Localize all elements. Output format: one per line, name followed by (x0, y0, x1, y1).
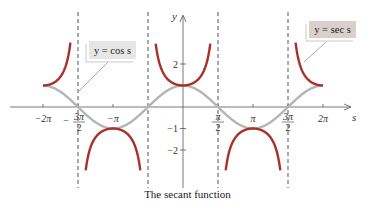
sec-curve-branch (226, 129, 281, 171)
x-axis-label: s (352, 111, 356, 123)
cos-leader-line (78, 62, 108, 92)
x-tick-label: π2 (212, 111, 224, 133)
x-tick-label: −2π (35, 113, 53, 124)
cos-label-callout: y = cos s (78, 41, 136, 92)
sec-curve-branch (43, 43, 70, 86)
svg-text:2: 2 (286, 122, 291, 133)
svg-text:2: 2 (216, 122, 221, 133)
svg-text:π: π (215, 111, 221, 122)
sec-label-text: y = sec s (314, 24, 351, 35)
y-tick-label: −2 (167, 145, 178, 156)
sec-leader-line (304, 42, 326, 62)
x-tick-label: π (250, 113, 256, 124)
y-tick-label: −1 (167, 123, 178, 134)
sec-curve-branch (296, 43, 323, 86)
y-axis-label: y (171, 10, 177, 22)
figure-caption: The secant function (0, 188, 375, 200)
cos-label-text: y = cos s (94, 45, 131, 56)
x-tick-label: 2π (318, 113, 329, 124)
axes: s y (10, 10, 356, 188)
sec-label-callout: y = sec s (304, 21, 356, 62)
sec-curve-branch (86, 129, 141, 171)
x-tick-label: 3π2 (282, 111, 294, 133)
x-tick-label: −3π2 (63, 111, 85, 133)
x-tick-label: −π (107, 113, 120, 124)
y-tick-label: 2 (173, 59, 178, 70)
svg-text:−: − (63, 115, 69, 126)
svg-text:2: 2 (76, 122, 81, 133)
secant-chart: s y −2π−3π2−ππ2π3π22π 2−1−2 y = cos s y … (0, 0, 375, 210)
